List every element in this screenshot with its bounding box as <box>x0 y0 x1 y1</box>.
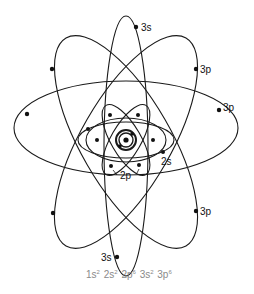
config-orbital: 2p <box>121 269 133 280</box>
config-electrons: 2 <box>97 269 101 275</box>
label-2p-pointer <box>137 169 139 173</box>
electron-2p <box>136 113 140 117</box>
electron-configuration: 1s2 2s2 2p6 3s2 3p6 <box>86 265 172 280</box>
config-orbital: 2s <box>104 269 115 280</box>
config-orbital: 3s <box>140 269 151 280</box>
orbit-3p-horizontal <box>14 81 238 175</box>
electron-2p <box>86 127 90 131</box>
label-3s-top: 3s <box>141 22 152 33</box>
label-3p-right: 3p <box>223 102 235 113</box>
electron-2p <box>108 113 112 117</box>
electron-2s <box>161 150 165 154</box>
config-electrons: 2 <box>114 269 118 275</box>
config-electrons: 2 <box>150 269 154 275</box>
label-3p-upper-right: 3p <box>200 64 212 75</box>
electron-3p <box>194 209 198 213</box>
electron-3p <box>25 112 29 116</box>
label-2s: 2s <box>161 156 172 167</box>
electron-3p <box>217 108 221 112</box>
electron-3p <box>51 211 55 215</box>
electron-3p <box>50 67 54 71</box>
config-orbital: 1s <box>86 269 97 280</box>
label-3s-bottom: 3s <box>101 252 112 263</box>
electron-3s <box>115 255 119 259</box>
electron-2p <box>109 164 113 168</box>
nucleus <box>123 137 128 142</box>
orbits <box>14 16 238 276</box>
electron-3p <box>194 67 198 71</box>
config-electrons: 6 <box>168 269 172 275</box>
electron-1s <box>130 132 134 136</box>
electron-2p <box>95 138 99 142</box>
config-orbital: 3p <box>157 269 169 280</box>
atom-orbital-diagram: 3s 3p 3p 2s 2p 3p 3s 1s2 2s2 2p6 3s2 3p6 <box>0 0 254 294</box>
config-electrons: 6 <box>133 269 137 275</box>
orbital-labels: 3s 3p 3p 2s 2p 3p 3s <box>101 22 235 263</box>
electron-3s <box>134 25 138 29</box>
configuration-text: 1s2 2s2 2p6 3s2 3p6 <box>86 265 172 280</box>
label-2p: 2p <box>120 170 132 181</box>
electron-1s <box>118 144 122 148</box>
label-3p-lower-right: 3p <box>200 206 212 217</box>
electron-2p <box>137 163 141 167</box>
orbit-3s <box>104 16 148 276</box>
electron-2p <box>151 138 155 142</box>
